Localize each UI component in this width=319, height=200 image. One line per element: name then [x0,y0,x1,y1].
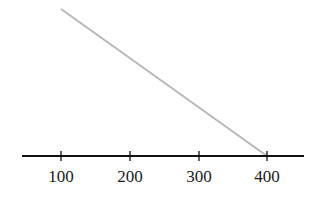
tick-label-100: 100 [48,167,74,186]
tick-label-300: 300 [186,167,212,186]
tick-label-400: 400 [254,167,280,186]
tick-label-200: 200 [117,167,143,186]
number-line-diagram: 100 200 300 400 [0,0,319,200]
descending-line [61,9,267,156]
